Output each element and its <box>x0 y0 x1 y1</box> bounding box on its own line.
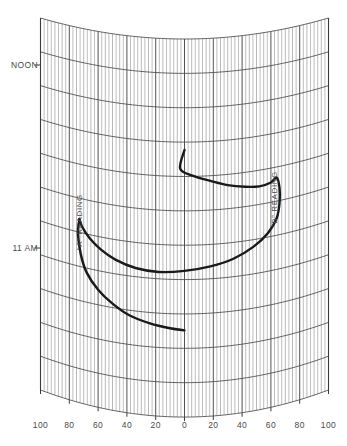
x-axis-tick-label: 80 <box>64 420 74 430</box>
x-axis-tick-label: 100 <box>33 420 48 430</box>
x-axis-tick-label: 40 <box>237 420 247 430</box>
x-axis-tick-label: 100 <box>321 420 336 430</box>
x-axis-tick-label: 20 <box>208 420 218 430</box>
chart-canvas: 10080604020020406080100 NOON 11 AM “A” R… <box>0 0 347 446</box>
x-axis-tick-label: 60 <box>266 420 276 430</box>
annotation-b-reading: “B” READING <box>270 171 279 227</box>
annotation-a-reading: “A” READING <box>75 194 84 250</box>
x-axis-tick-label: 0 <box>182 420 187 430</box>
sun-compass-chart: 10080604020020406080100 NOON 11 AM “A” R… <box>0 0 347 446</box>
y-axis-label-noon: NOON <box>11 60 38 70</box>
x-axis-tick-labels: 10080604020020406080100 <box>33 420 336 430</box>
x-axis-tick-label: 20 <box>151 420 161 430</box>
y-axis-label-11am: 11 AM <box>13 243 38 253</box>
x-axis-tick-label: 80 <box>295 420 305 430</box>
x-axis-tick-label: 60 <box>93 420 103 430</box>
x-axis-tick-label: 40 <box>122 420 132 430</box>
